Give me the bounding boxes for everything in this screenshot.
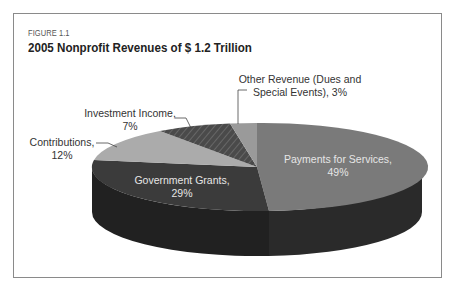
label-government-line1: Government Grants, bbox=[134, 174, 229, 186]
label-contributions-line2: 12% bbox=[51, 149, 72, 161]
label-investment-line2: 7% bbox=[122, 120, 137, 132]
label-contributions-line1: Contributions, bbox=[30, 136, 95, 148]
label-other-line2: Special Events), 3% bbox=[253, 86, 347, 98]
label-contributions: Contributions, 12% bbox=[30, 136, 95, 161]
leader-investment bbox=[175, 118, 191, 128]
label-government-line2: 29% bbox=[171, 187, 192, 199]
pie-chart: Other Revenue (Dues and Special Events),… bbox=[0, 0, 455, 289]
label-payments-line2: 49% bbox=[327, 166, 348, 178]
leader-other bbox=[238, 90, 247, 124]
label-investment-line1: Investment Income, bbox=[84, 107, 176, 119]
label-other: Other Revenue (Dues and Special Events),… bbox=[239, 73, 362, 98]
label-payments-line1: Payments for Services, bbox=[284, 153, 392, 165]
pie-top bbox=[92, 123, 428, 211]
label-other-line1: Other Revenue (Dues and bbox=[239, 73, 362, 85]
label-investment: Investment Income, 7% bbox=[84, 107, 176, 132]
